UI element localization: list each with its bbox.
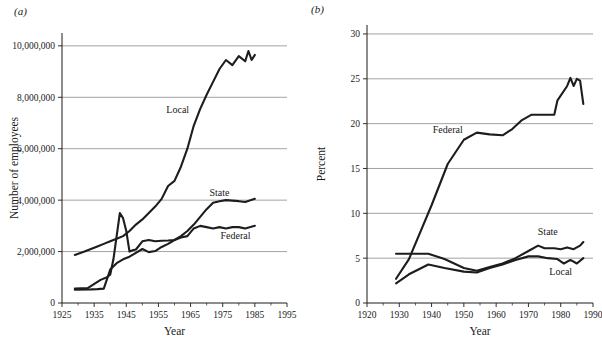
y-tick-label: 5 (355, 254, 360, 264)
panel-b: (b) 051015202530192019301940195019601970… (301, 0, 602, 344)
y-tick-label: 2,000,000 (17, 247, 55, 257)
y-tick-label: 15 (351, 164, 361, 174)
x-tick-label: 1930 (390, 310, 409, 320)
panel-a-tag: (a) (14, 5, 27, 17)
series-label: Local (166, 104, 189, 115)
series-label: Federal (433, 124, 463, 135)
chart-a-canvas: 02,000,0004,000,0006,000,0008,000,00010,… (0, 0, 301, 344)
series-label: State (538, 226, 559, 237)
y-axis-title: Number of employees (8, 116, 21, 219)
y-tick-label: 30 (351, 29, 361, 39)
series-line-local (75, 51, 255, 255)
x-tick-label: 1980 (551, 310, 570, 320)
y-tick-label: 0 (355, 298, 360, 308)
y-tick-label: 10,000,000 (12, 41, 55, 51)
panel-a: (a) 02,000,0004,000,0006,000,0008,000,00… (0, 0, 301, 344)
x-tick-label: 1960 (487, 310, 506, 320)
x-tick-label: 1995 (278, 310, 297, 320)
series-label: Local (549, 266, 572, 277)
x-tick-label: 1925 (53, 310, 72, 320)
y-tick-label: 10 (351, 209, 361, 219)
x-tick-label: 1945 (117, 310, 136, 320)
x-tick-label: 1985 (245, 310, 264, 320)
x-tick-label: 1935 (85, 310, 104, 320)
x-tick-label: 1965 (181, 310, 200, 320)
series-label: State (210, 187, 231, 198)
y-tick-label: 0 (50, 298, 55, 308)
x-tick-label: 1940 (422, 310, 441, 320)
y-tick-label: 4,000,000 (17, 196, 55, 206)
x-axis-title: Year (164, 325, 185, 337)
figure-root: (a) 02,000,0004,000,0006,000,0008,000,00… (0, 0, 602, 344)
x-tick-label: 1970 (519, 310, 538, 320)
x-tick-label: 1990 (584, 310, 602, 320)
x-tick-label: 1975 (213, 310, 232, 320)
x-tick-label: 1920 (358, 310, 377, 320)
series-line-federal (75, 213, 255, 289)
chart-b-canvas: 0510152025301920193019401950196019701980… (301, 0, 602, 344)
x-axis-title: Year (469, 325, 490, 337)
y-axis-title: Percent (315, 146, 327, 181)
y-tick-label: 8,000,000 (17, 93, 55, 103)
panel-b-tag: (b) (311, 3, 324, 15)
x-tick-label: 1955 (149, 310, 168, 320)
y-tick-label: 25 (351, 74, 361, 84)
series-label: Federal (221, 230, 251, 241)
y-tick-label: 20 (351, 119, 361, 129)
y-tick-label: 6,000,000 (17, 144, 55, 154)
x-tick-label: 1950 (454, 310, 473, 320)
